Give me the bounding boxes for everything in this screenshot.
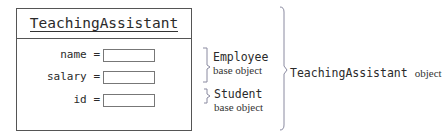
employee-bracket-icon bbox=[203, 48, 210, 82]
employee-annotation: Employee base object bbox=[213, 51, 268, 76]
student-bracket-icon bbox=[204, 89, 210, 103]
student-annotation: Student base object bbox=[214, 88, 263, 113]
student-label: Student bbox=[214, 88, 263, 101]
employee-label: Employee bbox=[213, 51, 268, 64]
student-description: base object bbox=[214, 101, 263, 113]
object-bracket-icon bbox=[280, 7, 287, 130]
object-class-label: TeachingAssistant bbox=[290, 66, 408, 80]
object-annotation: TeachingAssistant object bbox=[290, 63, 442, 81]
employee-description: base object bbox=[213, 64, 268, 76]
object-description: object bbox=[415, 67, 442, 79]
